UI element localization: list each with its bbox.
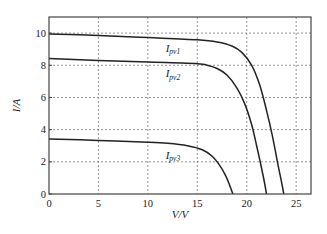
y-tick-label: 2	[41, 156, 46, 167]
x-tick-label: 25	[291, 198, 302, 209]
curve-label: Ipv3	[165, 149, 181, 164]
x-tick-label: 20	[241, 198, 252, 209]
curve-label: Ipv2	[165, 67, 181, 82]
series-curves	[49, 34, 284, 194]
y-tick-label: 4	[41, 124, 47, 135]
curve-ipv3	[49, 139, 233, 194]
iv-curve-chart: 05101520250246810 Ipv1Ipv2Ipv3 V/V I/A	[0, 0, 327, 234]
y-axis-label: I/A	[10, 99, 22, 114]
y-tick-label: 8	[41, 60, 46, 71]
y-tick-label: 6	[41, 92, 46, 103]
y-tick-label: 0	[41, 189, 46, 200]
x-tick-label: 15	[192, 198, 203, 209]
x-tick-label: 0	[46, 198, 51, 209]
grid-lines	[49, 17, 311, 194]
plot-frame	[49, 17, 311, 194]
x-tick-label: 5	[96, 198, 101, 209]
curve-label: Ipv1	[165, 42, 181, 57]
y-tick-label: 10	[36, 28, 47, 39]
curve-ipv2	[49, 59, 267, 194]
x-axis-label: V/V	[172, 208, 190, 220]
x-tick-label: 10	[143, 198, 154, 209]
